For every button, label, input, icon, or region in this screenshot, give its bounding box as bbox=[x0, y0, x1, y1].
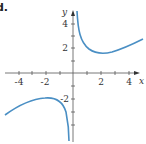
x-tick-label: 4 bbox=[126, 77, 132, 87]
x-tick-label: 2 bbox=[98, 77, 104, 87]
x-tick-label: -4 bbox=[15, 77, 24, 87]
part-label: d. bbox=[0, 1, 8, 14]
x-axis-label: x bbox=[139, 76, 144, 86]
graph: d. -4 -2 2 4 x bbox=[0, 0, 146, 144]
curve-left-branch bbox=[5, 98, 69, 141]
x-axis: -4 -2 2 4 x bbox=[5, 71, 144, 87]
y-axis-label: y bbox=[61, 7, 68, 17]
y-tick-label: 4 bbox=[62, 19, 68, 29]
y-tick-label: 2 bbox=[62, 43, 68, 53]
y-axis-arrow-icon bbox=[71, 10, 75, 16]
curve-right-branch bbox=[77, 11, 143, 53]
x-tick-label: -2 bbox=[41, 77, 50, 87]
x-axis-arrow-icon bbox=[134, 71, 140, 75]
